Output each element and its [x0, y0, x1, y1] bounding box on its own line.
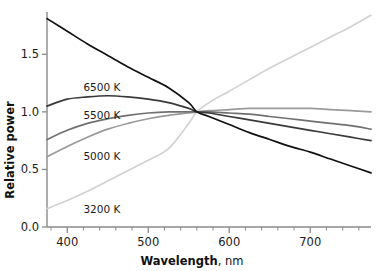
x-axis-title: Wavelength, nm — [141, 254, 244, 268]
x-tick-label: 400 — [56, 235, 78, 249]
y-axis-tick-labels: 0.00.51.01.5 — [21, 47, 39, 234]
x-tick-label: 500 — [137, 235, 159, 249]
y-tick-label: 0.0 — [21, 220, 39, 234]
series-label-5000-k: 5000 K — [83, 150, 121, 162]
y-tick-label: 1.0 — [21, 105, 39, 119]
chart-container: 0.00.51.01.5 400500600700 9300 K6500 K55… — [0, 0, 379, 271]
y-axis-ticks — [42, 54, 47, 227]
x-axis-title-unit: nm — [225, 254, 244, 268]
x-axis-ticks — [51, 227, 359, 233]
series-label-5500-k: 5500 K — [83, 109, 121, 121]
x-tick-label: 700 — [299, 235, 321, 249]
series-label-6500-k: 6500 K — [83, 81, 121, 93]
x-axis-title-main: Wavelength — [141, 254, 218, 268]
y-tick-label: 0.5 — [21, 162, 39, 176]
spectral-power-line-chart: 0.00.51.01.5 400500600700 9300 K6500 K55… — [0, 0, 379, 271]
y-tick-label: 1.5 — [21, 47, 39, 61]
x-tick-label: 600 — [218, 235, 240, 249]
x-axis-tick-labels: 400500600700 — [56, 235, 321, 249]
y-axis-title: Relative power — [3, 101, 17, 199]
series-inline-labels: 9300 K6500 K5500 K5000 K3200 K — [0, 16, 122, 215]
series-label-3200-k: 3200 K — [83, 203, 121, 215]
